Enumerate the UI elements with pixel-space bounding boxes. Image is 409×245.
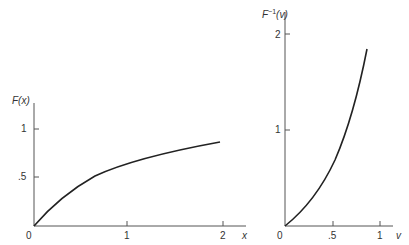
left-xlabel: x <box>242 231 247 241</box>
left-plot <box>34 103 246 226</box>
plots-svg <box>0 0 409 245</box>
right-ylabel-arg: (v) <box>276 9 288 20</box>
right-ylabel: F−1(v) <box>262 8 288 20</box>
figure: F(x) 1 .5 0 1 2 x F−1(v) 2 1 0 .5 1 v <box>0 0 409 245</box>
left-ylabel-arg: (x) <box>18 95 30 106</box>
left-xtick-label-1: 1 <box>124 231 130 241</box>
left-ytick-label-half: .5 <box>18 172 26 182</box>
right-xtick-label-1: 1 <box>377 231 383 241</box>
right-curve <box>285 49 367 226</box>
left-xtick-label-2: 2 <box>220 231 226 241</box>
left-origin-label: 0 <box>26 231 32 241</box>
left-ytick-label-1: 1 <box>21 124 27 134</box>
right-ytick-label-2: 2 <box>275 30 281 40</box>
left-ylabel: F(x) <box>12 96 30 106</box>
right-plot <box>285 12 393 226</box>
right-xlabel: v <box>396 231 401 241</box>
right-xtick-label-half: .5 <box>328 231 336 241</box>
right-ylabel-sup: −1 <box>268 8 276 15</box>
left-curve <box>34 142 220 226</box>
right-ytick-label-1: 1 <box>275 125 281 135</box>
right-origin-label: 0 <box>277 231 283 241</box>
